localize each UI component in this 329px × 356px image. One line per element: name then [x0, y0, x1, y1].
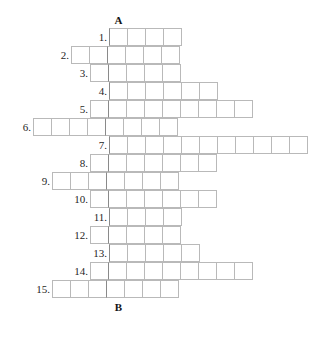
crossword-cell[interactable]	[141, 118, 160, 136]
crossword-cell[interactable]	[127, 28, 146, 46]
crossword-cell[interactable]	[217, 136, 236, 154]
crossword-cell[interactable]	[90, 226, 109, 244]
crossword-cell[interactable]	[109, 208, 128, 226]
crossword-cell[interactable]	[144, 262, 163, 280]
crossword-cell[interactable]	[162, 64, 181, 82]
crossword-cell[interactable]	[181, 244, 200, 262]
crossword-cell[interactable]	[51, 118, 70, 136]
crossword-cell[interactable]	[106, 280, 125, 298]
crossword-cell[interactable]	[163, 82, 182, 100]
crossword-cell[interactable]	[127, 208, 146, 226]
crossword-cell[interactable]	[163, 28, 182, 46]
crossword-cell[interactable]	[142, 172, 161, 190]
crossword-cell[interactable]	[198, 154, 217, 172]
crossword-cell[interactable]	[145, 244, 164, 262]
crossword-cell[interactable]	[162, 154, 181, 172]
crossword-cell[interactable]	[87, 118, 106, 136]
crossword-cell[interactable]	[235, 136, 254, 154]
crossword-cell[interactable]	[108, 262, 127, 280]
crossword-cell[interactable]	[181, 82, 200, 100]
crossword-cell[interactable]	[234, 262, 253, 280]
crossword-cell[interactable]	[163, 208, 182, 226]
crossword-cell[interactable]	[127, 82, 146, 100]
crossword-cell[interactable]	[89, 46, 108, 64]
crossword-cell[interactable]	[126, 262, 145, 280]
crossword-cell[interactable]	[180, 262, 199, 280]
crossword-cell[interactable]	[180, 154, 199, 172]
crossword-cell[interactable]	[108, 154, 127, 172]
crossword-cell[interactable]	[69, 118, 88, 136]
crossword-cell[interactable]	[90, 190, 109, 208]
crossword-cell[interactable]	[90, 262, 109, 280]
crossword-cell[interactable]	[90, 64, 109, 82]
crossword-cell[interactable]	[71, 46, 90, 64]
crossword-cell[interactable]	[70, 280, 89, 298]
crossword-cell[interactable]	[126, 154, 145, 172]
crossword-cell[interactable]	[198, 262, 217, 280]
crossword-cell[interactable]	[145, 136, 164, 154]
crossword-cell[interactable]	[109, 82, 128, 100]
crossword-cell[interactable]	[33, 118, 52, 136]
crossword-cell[interactable]	[145, 208, 164, 226]
crossword-cell[interactable]	[144, 154, 163, 172]
crossword-cell[interactable]	[88, 172, 107, 190]
crossword-cell[interactable]	[143, 46, 162, 64]
crossword-cell[interactable]	[163, 244, 182, 262]
crossword-cell[interactable]	[144, 100, 163, 118]
crossword-cell[interactable]	[108, 64, 127, 82]
crossword-cell[interactable]	[105, 118, 124, 136]
crossword-cell[interactable]	[123, 118, 142, 136]
crossword-cell[interactable]	[108, 190, 127, 208]
crossword-cell[interactable]	[90, 154, 109, 172]
crossword-cell[interactable]	[163, 136, 182, 154]
crossword-cell[interactable]	[126, 226, 145, 244]
crossword-cell[interactable]	[144, 64, 163, 82]
crossword-cell[interactable]	[109, 136, 128, 154]
crossword-cell[interactable]	[90, 100, 109, 118]
crossword-cell[interactable]	[289, 136, 308, 154]
crossword-cell[interactable]	[199, 82, 218, 100]
crossword-cell[interactable]	[70, 172, 89, 190]
crossword-cell[interactable]	[162, 100, 181, 118]
crossword-cell[interactable]	[159, 118, 178, 136]
crossword-cell[interactable]	[216, 262, 235, 280]
crossword-cell[interactable]	[124, 172, 143, 190]
crossword-cell[interactable]	[198, 100, 217, 118]
crossword-cell[interactable]	[127, 136, 146, 154]
crossword-cell[interactable]	[142, 280, 161, 298]
crossword-cell[interactable]	[161, 46, 180, 64]
crossword-cell[interactable]	[127, 244, 146, 262]
crossword-cell[interactable]	[124, 280, 143, 298]
crossword-cell[interactable]	[107, 46, 126, 64]
crossword-cell[interactable]	[126, 64, 145, 82]
crossword-cell[interactable]	[144, 190, 163, 208]
crossword-cell[interactable]	[162, 190, 181, 208]
crossword-cell[interactable]	[160, 280, 179, 298]
crossword-cell[interactable]	[162, 262, 181, 280]
crossword-cell[interactable]	[181, 136, 200, 154]
crossword-cell[interactable]	[253, 136, 272, 154]
crossword-cell[interactable]	[145, 82, 164, 100]
crossword-cell[interactable]	[106, 172, 125, 190]
crossword-cell[interactable]	[199, 136, 218, 154]
crossword-cell[interactable]	[216, 100, 235, 118]
crossword-cell[interactable]	[145, 28, 164, 46]
crossword-cell[interactable]	[52, 172, 71, 190]
crossword-cell[interactable]	[126, 190, 145, 208]
crossword-cell[interactable]	[108, 226, 127, 244]
crossword-cell[interactable]	[88, 280, 107, 298]
crossword-cell[interactable]	[180, 100, 199, 118]
crossword-cell[interactable]	[271, 136, 290, 154]
crossword-cell[interactable]	[125, 46, 144, 64]
crossword-cell[interactable]	[108, 100, 127, 118]
crossword-cell[interactable]	[126, 100, 145, 118]
crossword-cell[interactable]	[162, 226, 181, 244]
crossword-cell[interactable]	[234, 100, 253, 118]
crossword-cell[interactable]	[180, 190, 199, 208]
crossword-cell[interactable]	[144, 226, 163, 244]
crossword-cell[interactable]	[198, 190, 217, 208]
crossword-cell[interactable]	[160, 172, 179, 190]
crossword-cell[interactable]	[52, 280, 71, 298]
crossword-cell[interactable]	[109, 28, 128, 46]
crossword-cell[interactable]	[109, 244, 128, 262]
